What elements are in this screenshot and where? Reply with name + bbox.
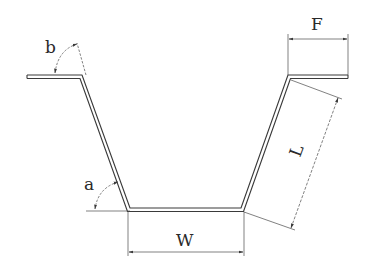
label-F: F bbox=[311, 14, 323, 34]
profile-inner-line bbox=[27, 79, 348, 212]
label-L: L bbox=[285, 142, 308, 159]
profile-outer-line bbox=[27, 75, 348, 208]
label-W: W bbox=[176, 230, 194, 250]
label-b: b bbox=[45, 37, 56, 57]
a-arc bbox=[95, 182, 118, 209]
sheet-profile bbox=[27, 75, 348, 212]
l-extension-bottom bbox=[244, 212, 295, 230]
b-arc bbox=[55, 44, 77, 73]
angle-b bbox=[55, 43, 86, 75]
l-extension-top bbox=[291, 80, 342, 99]
b-reference-line bbox=[77, 43, 86, 75]
label-a: a bbox=[84, 174, 94, 194]
dimension-F bbox=[288, 34, 348, 75]
l-dimension-line bbox=[291, 98, 338, 228]
profile-diagram: F W L a b bbox=[0, 0, 370, 270]
